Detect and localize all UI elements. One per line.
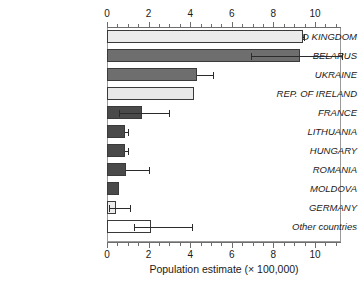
x-tick-label-bottom-4: 4	[178, 249, 202, 260]
bar	[107, 87, 194, 100]
x-tick-bottom-6.5	[242, 243, 243, 246]
category-label: Other countries	[256, 222, 360, 232]
x-tick-label-bottom-6: 6	[220, 249, 244, 260]
bar	[107, 163, 126, 176]
error-bar-cap	[149, 167, 150, 174]
error-bar	[134, 227, 192, 228]
x-tick-top-1	[128, 24, 129, 27]
x-tick-top-8	[273, 22, 274, 27]
x-tick-top-9.5	[305, 24, 306, 27]
error-bar-cap	[251, 53, 252, 60]
category-label: REP. OF IRELAND	[256, 89, 360, 99]
x-tick-bottom-3.5	[180, 243, 181, 246]
x-tick-top-9	[294, 24, 295, 27]
error-bar	[109, 208, 130, 209]
x-tick-bottom-1.5	[138, 243, 139, 246]
category-label: GERMANY	[256, 203, 360, 213]
x-tick-bottom-0.5	[117, 243, 118, 246]
x-tick-top-7.5	[263, 24, 264, 27]
error-bar-cap	[213, 72, 214, 79]
x-tick-top-2	[149, 22, 150, 27]
x-tick-bottom-5.5	[221, 243, 222, 246]
x-tick-top-5	[211, 24, 212, 27]
x-tick-top-4.5	[201, 24, 202, 27]
x-tick-label-top-0: 0	[95, 8, 119, 19]
bar	[107, 182, 119, 195]
x-tick-label-bottom-0: 0	[95, 249, 119, 260]
category-label: MOLDOVA	[256, 184, 360, 194]
error-bar	[119, 113, 169, 114]
category-label: LITHUANIA	[256, 127, 360, 137]
x-tick-top-10.5	[325, 24, 326, 27]
x-tick-label-top-4: 4	[178, 8, 202, 19]
x-tick-bottom-3	[169, 243, 170, 246]
x-tick-top-2.5	[159, 24, 160, 27]
category-label: FRANCE	[256, 108, 360, 118]
error-bar-cap	[342, 53, 343, 60]
x-tick-bottom-4.5	[201, 243, 202, 246]
x-tick-bottom-10	[315, 243, 316, 248]
error-bar-cap	[130, 205, 131, 212]
x-tick-bottom-2.5	[159, 243, 160, 246]
x-tick-label-top-10: 10	[303, 8, 327, 19]
x-tick-top-6.5	[242, 24, 243, 27]
x-tick-label-bottom-8: 8	[261, 249, 285, 260]
x-tick-top-10	[315, 22, 316, 27]
error-bar-cap	[128, 129, 129, 136]
error-bar-cap	[109, 205, 110, 212]
x-tick-top-7	[253, 24, 254, 27]
x-tick-top-11	[336, 24, 337, 27]
x-tick-bottom-11	[336, 243, 337, 246]
error-bar-cap	[119, 110, 120, 117]
x-tick-bottom-9.5	[305, 243, 306, 246]
x-axis-bottom	[107, 242, 341, 243]
x-tick-top-5.5	[221, 24, 222, 27]
error-bar-cap	[192, 224, 193, 231]
x-tick-label-top-2: 2	[137, 8, 161, 19]
x-tick-top-0	[107, 22, 108, 27]
x-tick-bottom-7	[253, 243, 254, 246]
x-tick-label-bottom-10: 10	[303, 249, 327, 260]
x-tick-bottom-8	[273, 243, 274, 248]
x-tick-bottom-4	[190, 243, 191, 248]
error-bar-cap	[304, 34, 305, 41]
x-tick-bottom-10.5	[325, 243, 326, 246]
error-bar	[197, 75, 213, 76]
x-tick-bottom-2	[149, 243, 150, 248]
x-tick-top-4	[190, 22, 191, 27]
x-tick-top-3.5	[180, 24, 181, 27]
x-tick-bottom-0	[107, 243, 108, 248]
x-tick-top-6	[232, 22, 233, 27]
x-tick-bottom-9	[294, 243, 295, 246]
x-tick-bottom-7.5	[263, 243, 264, 246]
error-bar-cap	[128, 148, 129, 155]
error-bar-cap	[169, 110, 170, 117]
x-tick-top-8.5	[284, 24, 285, 27]
category-label: UKRAINE	[256, 70, 360, 80]
bar	[107, 125, 125, 138]
bar	[107, 144, 125, 157]
x-tick-label-top-6: 6	[220, 8, 244, 19]
x-tick-bottom-5	[211, 243, 212, 246]
x-tick-label-top-8: 8	[261, 8, 285, 19]
error-bar	[126, 170, 149, 171]
x-axis-title: Population estimate (× 100,000)	[107, 263, 341, 275]
x-tick-bottom-8.5	[284, 243, 285, 246]
category-label: ROMANIA	[256, 165, 360, 175]
x-axis-top	[107, 27, 341, 28]
x-tick-label-bottom-2: 2	[137, 249, 161, 260]
error-bar	[251, 56, 343, 57]
x-tick-top-3	[169, 24, 170, 27]
x-tick-top-1.5	[138, 24, 139, 27]
x-tick-top-0.5	[117, 24, 118, 27]
x-tick-bottom-6	[232, 243, 233, 248]
error-bar-cap	[134, 224, 135, 231]
population-estimate-bar-chart: UNITED KINGDOMBELARUSUKRAINEREP. OF IREL…	[0, 0, 360, 284]
category-label: HUNGARY	[256, 146, 360, 156]
x-tick-bottom-1	[128, 243, 129, 246]
bar	[107, 30, 303, 43]
bar	[107, 68, 197, 81]
